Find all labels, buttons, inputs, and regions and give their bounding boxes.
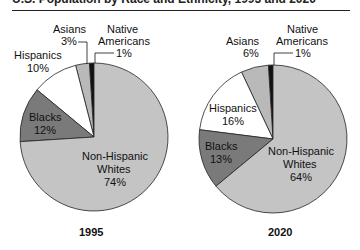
label-asians-1995: Asians [53,23,87,35]
label-whites-1995: Non-Hispanic [82,150,149,162]
label-native-1995: Native [107,23,138,35]
label-asians-pct-1995: 3% [61,35,77,47]
label-hispanics-1995: Hispanics [14,49,62,61]
label-whites-1995-line2: Whites [97,163,131,175]
label-native-2020: Native [287,23,318,35]
label-native-pct-2020: 1% [295,47,311,59]
pie-chart-1995 [20,63,168,211]
pie-chart-2020 [199,65,347,213]
leader-native-1995 [95,53,114,63]
label-blacks-pct-2020: 13% [210,153,232,165]
label-asians-2020: Asians [226,35,260,47]
label-whites-pct-1995: 74% [104,176,126,188]
year-label-2020: 2020 [268,226,292,238]
label-native-2020-line2: Americans [276,35,328,47]
label-whites-2020-line2: Whites [283,158,317,170]
label-hispanics-pct-2020: 16% [222,115,244,127]
label-whites-2020: Non-Hispanic [268,145,335,157]
year-label-1995: 1995 [79,226,103,238]
label-blacks-pct-1995: 12% [34,124,56,136]
label-blacks-1995: Blacks [29,111,62,123]
leader-native-2020 [274,53,293,65]
label-asians-pct-2020: 6% [243,47,259,59]
label-hispanics-2020: Hispanics [209,102,257,114]
label-whites-pct-2020: 64% [290,171,312,183]
label-native-1995-line2: Americans [98,35,150,47]
leader-asians-1995 [78,42,87,64]
label-hispanics-pct-1995: 10% [27,62,49,74]
label-blacks-2020: Blacks [205,140,238,152]
label-native-pct-1995: 1% [116,47,132,59]
charts-canvas: Native Americans 1% Asians 3% Hispanics … [0,0,360,250]
